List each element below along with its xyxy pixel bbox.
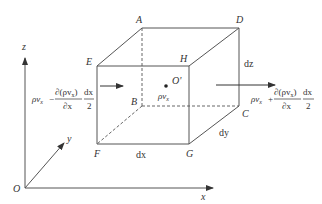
svg-text:ρvx: ρvx — [250, 94, 262, 105]
z-axis-label: z — [21, 41, 26, 52]
vertex-C-label: C — [242, 108, 249, 119]
origin-label: O — [13, 183, 20, 194]
inflow-expression: ρvx − ∂(ρvx) ∂x dx 2 — [31, 87, 94, 111]
y-axis — [25, 143, 64, 188]
dimension-dx: dx — [136, 149, 146, 160]
svg-text:+: + — [268, 94, 273, 104]
svg-text:∂(ρvx): ∂(ρvx) — [274, 87, 296, 98]
vertex-F-label: F — [93, 148, 101, 159]
coordinate-axes — [25, 58, 213, 188]
center-point — [164, 84, 168, 88]
vertex-G-label: G — [186, 148, 193, 159]
svg-text:ρvx: ρvx — [31, 94, 43, 105]
vertex-E-label: E — [85, 56, 92, 67]
edge-HD — [189, 28, 239, 66]
vertex-B-label: B — [131, 96, 137, 107]
dimension-dy: dy — [219, 127, 229, 138]
svg-text:−: − — [49, 94, 54, 104]
svg-text:∂x: ∂x — [282, 101, 291, 111]
svg-text:∂(ρvx): ∂(ρvx) — [55, 87, 77, 98]
svg-text:dx: dx — [303, 87, 313, 97]
svg-text:∂x: ∂x — [63, 101, 72, 111]
outflow-expression: ρvx + ∂(ρvx) ∂x dx 2 — [250, 87, 314, 111]
x-axis-label: x — [200, 191, 206, 202]
vertex-A-label: A — [135, 14, 143, 25]
vertex-H-label: H — [179, 53, 188, 64]
svg-text:dx: dx — [84, 87, 94, 97]
center-label: O' — [172, 75, 182, 86]
center-quantity: ρvx — [157, 91, 169, 102]
svg-text:2: 2 — [306, 101, 311, 111]
vertex-D-label: D — [235, 14, 244, 25]
control-volume-diagram: z x y O A D E H B C F G dz dy dx O' ρvx … — [0, 0, 322, 204]
edge-BF — [97, 106, 142, 144]
edge-EA — [97, 28, 142, 66]
dimension-dz: dz — [244, 58, 254, 69]
svg-text:2: 2 — [87, 101, 92, 111]
edge-GC — [189, 106, 239, 144]
y-axis-label: y — [66, 133, 72, 144]
